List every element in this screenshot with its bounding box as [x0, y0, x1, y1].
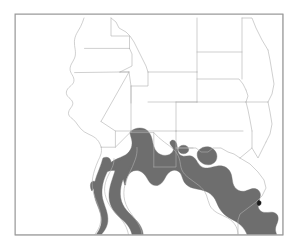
map-canvas	[0, 0, 297, 250]
range-coastal-marker	[257, 200, 261, 205]
distribution-map-figure	[0, 0, 297, 250]
range-patch-disjunct-small	[178, 145, 188, 154]
